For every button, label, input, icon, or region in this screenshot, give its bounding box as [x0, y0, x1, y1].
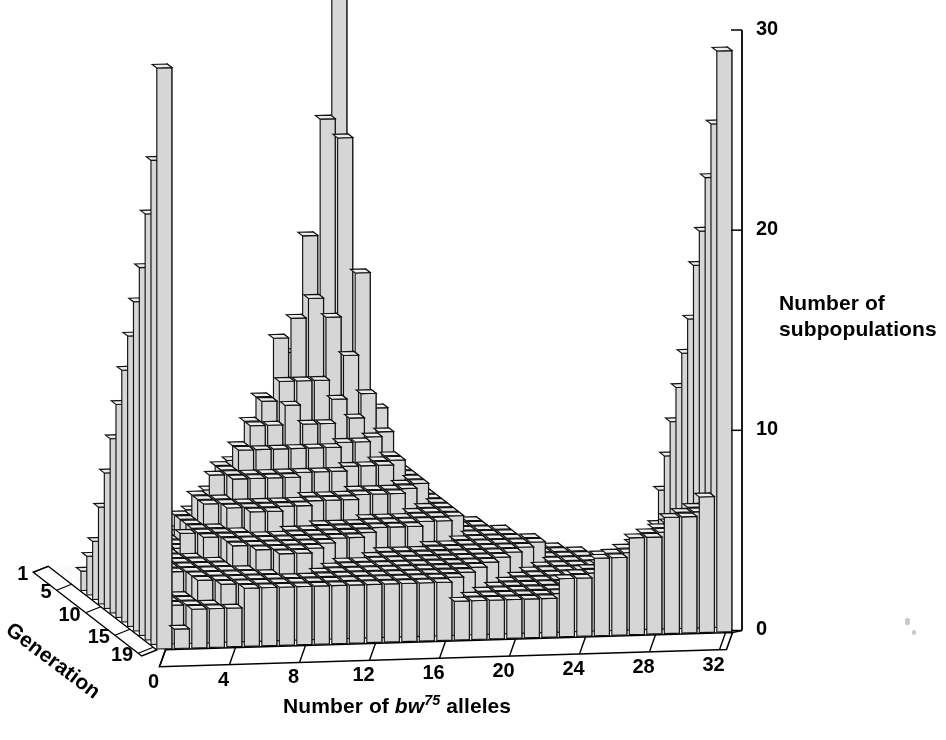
x-tick-16: 16 — [423, 661, 445, 684]
x-tick-8: 8 — [288, 665, 299, 688]
generation-tick-15: 15 — [88, 625, 110, 648]
x-tick-24: 24 — [563, 657, 585, 680]
generation-tick-5: 5 — [40, 580, 51, 603]
x-axis-title-superscript: 75 — [424, 692, 440, 708]
x-tick-28: 28 — [633, 655, 655, 678]
x-axis-title-prefix: Number of — [283, 694, 395, 717]
z-axis-title-line1: Number of — [779, 291, 885, 314]
figure-root: Number of bw75 alleles Number ofsubpopul… — [0, 0, 946, 740]
x-axis-title-gene: bw — [395, 694, 424, 717]
generation-tick-1: 1 — [17, 562, 28, 585]
z-tick-30: 30 — [756, 17, 778, 40]
z-tick-0: 0 — [756, 617, 767, 640]
z-tick-20: 20 — [756, 217, 778, 240]
x-tick-4: 4 — [218, 668, 229, 691]
scan-artifact-speck-2 — [912, 630, 916, 635]
x-axis-title-suffix: alleles — [440, 694, 511, 717]
scan-artifact-speck — [905, 618, 910, 625]
generation-tick-10: 10 — [59, 603, 81, 626]
generation-tick-19: 19 — [111, 643, 133, 666]
x-tick-0: 0 — [148, 670, 159, 693]
x-tick-32: 32 — [703, 653, 725, 676]
z-axis-title-line2: subpopulations — [779, 317, 937, 340]
x-tick-12: 12 — [353, 663, 375, 686]
histogram-3d-canvas — [0, 0, 946, 740]
z-axis-title: Number ofsubpopulations — [779, 290, 937, 342]
x-tick-20: 20 — [493, 659, 515, 682]
z-tick-10: 10 — [756, 417, 778, 440]
x-axis-title: Number of bw75 alleles — [283, 694, 511, 718]
